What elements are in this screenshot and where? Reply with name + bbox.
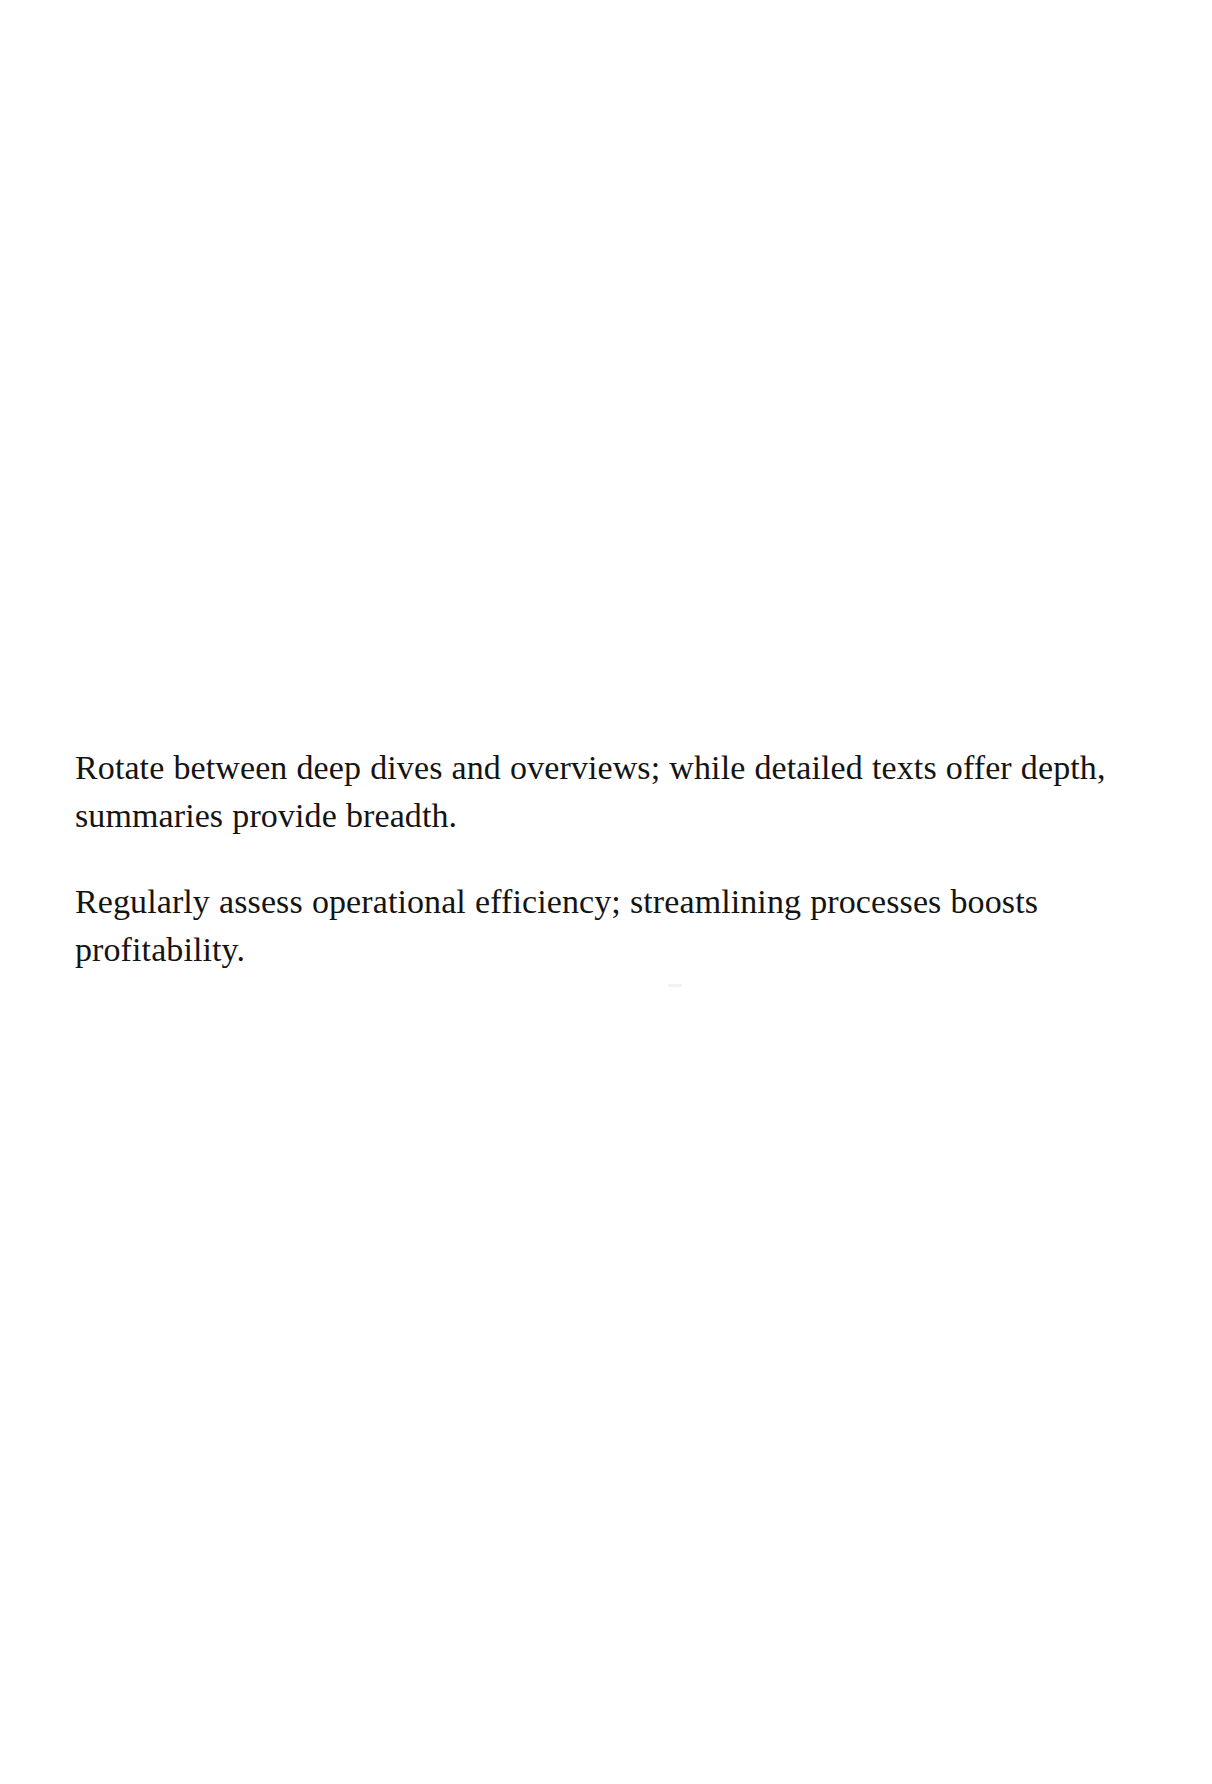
scan-artifact-speckle (668, 984, 682, 987)
body-text-block: Rotate between deep dives and overviews;… (75, 744, 1110, 974)
paragraph-1: Rotate between deep dives and overviews;… (75, 744, 1110, 840)
paragraph-2: Regularly assess operational efficiency;… (75, 878, 1110, 974)
document-page: Rotate between deep dives and overviews;… (0, 0, 1212, 1784)
